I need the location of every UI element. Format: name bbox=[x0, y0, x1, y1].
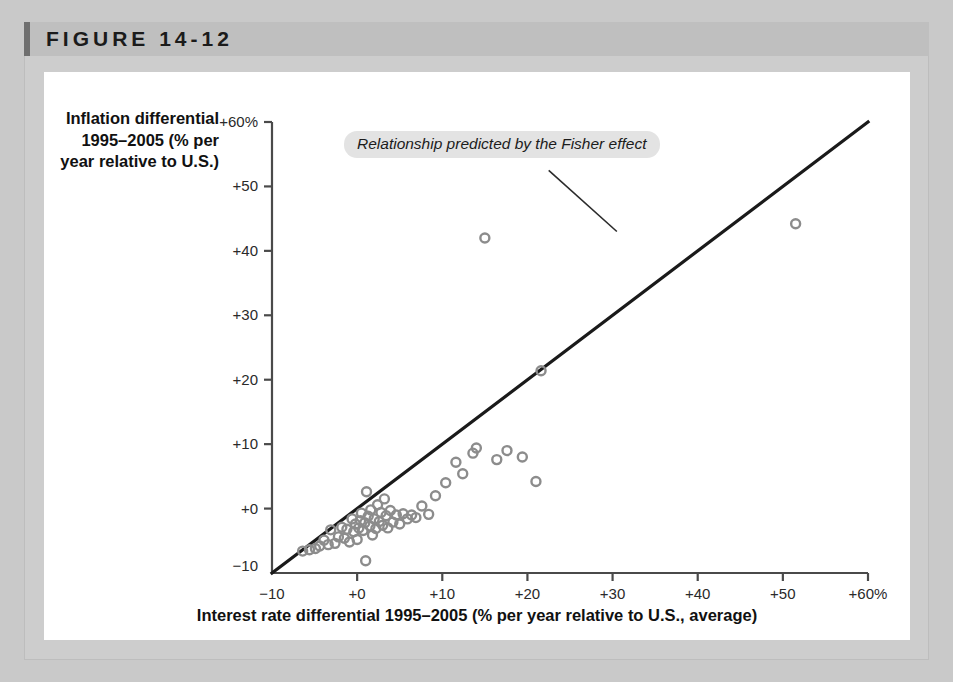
x-tick-label: +30 bbox=[579, 585, 647, 602]
y-tick-label: +40 bbox=[188, 242, 258, 259]
x-tick-label: +60% bbox=[834, 585, 902, 602]
annotation-leader-line bbox=[549, 170, 617, 231]
data-point bbox=[362, 487, 371, 496]
data-point bbox=[480, 233, 489, 242]
y-tick-label: −10 bbox=[188, 557, 258, 574]
y-tick-label: +10 bbox=[188, 435, 258, 452]
data-point bbox=[502, 446, 511, 455]
data-point bbox=[417, 501, 426, 510]
data-point bbox=[458, 469, 467, 478]
x-tick-label: +0 bbox=[323, 585, 391, 602]
data-point bbox=[791, 219, 800, 228]
data-point bbox=[518, 453, 527, 462]
data-point bbox=[451, 458, 460, 467]
x-tick-label: +20 bbox=[493, 585, 561, 602]
scatter-plot bbox=[0, 0, 953, 682]
x-tick-label: +10 bbox=[408, 585, 476, 602]
data-point bbox=[424, 510, 433, 519]
figure-page: FIGURE 14-12 Inflation differential 1995… bbox=[0, 0, 953, 682]
y-tick-label: +60% bbox=[188, 113, 258, 130]
data-point bbox=[531, 477, 540, 486]
data-point bbox=[380, 494, 389, 503]
data-points bbox=[298, 219, 800, 565]
y-tick-label: +50 bbox=[188, 177, 258, 194]
data-point bbox=[361, 556, 370, 565]
data-point bbox=[441, 478, 450, 487]
data-point bbox=[492, 455, 501, 464]
y-tick-label: +20 bbox=[188, 371, 258, 388]
x-tick-label: +40 bbox=[664, 585, 732, 602]
y-tick-label: +30 bbox=[188, 306, 258, 323]
y-tick-label: +0 bbox=[188, 500, 258, 517]
x-tick-label: −10 bbox=[238, 585, 306, 602]
data-point bbox=[431, 491, 440, 500]
x-tick-label: +50 bbox=[749, 585, 817, 602]
